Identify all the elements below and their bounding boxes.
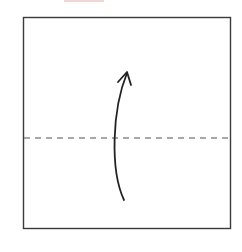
fold-diagram <box>0 0 242 252</box>
paper-square <box>24 18 231 229</box>
